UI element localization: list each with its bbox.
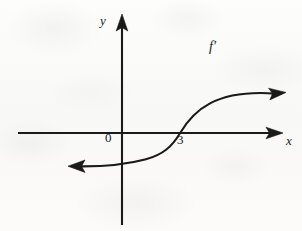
x-tick-label-3: 3 xyxy=(177,133,184,146)
coordinate-plot xyxy=(0,0,302,231)
curve-label-f-prime: f′ xyxy=(209,40,216,54)
x-axis-label: x xyxy=(286,134,292,147)
y-axis-label: y xyxy=(100,14,106,27)
origin-label: 0 xyxy=(105,131,112,144)
graph-figure: y x 0 3 f′ xyxy=(0,0,302,231)
